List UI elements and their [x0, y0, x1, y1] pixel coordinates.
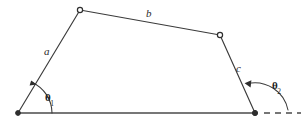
- diagram-canvas: [0, 0, 307, 125]
- figure-container: a b c θ1 θ2: [0, 0, 307, 125]
- side-c-line: [220, 35, 255, 113]
- side-c-label: c: [236, 63, 241, 74]
- vertex-bottom-right-marker: [252, 110, 257, 115]
- vertex-top-right-marker: [217, 32, 222, 37]
- theta2-subscript: 2: [277, 87, 281, 96]
- vertex-top-left-marker: [77, 7, 82, 12]
- theta1-label: θ1: [45, 92, 55, 106]
- theta1-subscript: 1: [50, 99, 54, 108]
- theta2-arc: [248, 83, 289, 110]
- theta2-label: θ2: [272, 80, 282, 94]
- theta2-arrowhead: [245, 80, 252, 87]
- vertex-bottom-left-marker: [16, 111, 21, 116]
- side-a-label: a: [44, 46, 50, 57]
- side-b-label: b: [146, 8, 152, 19]
